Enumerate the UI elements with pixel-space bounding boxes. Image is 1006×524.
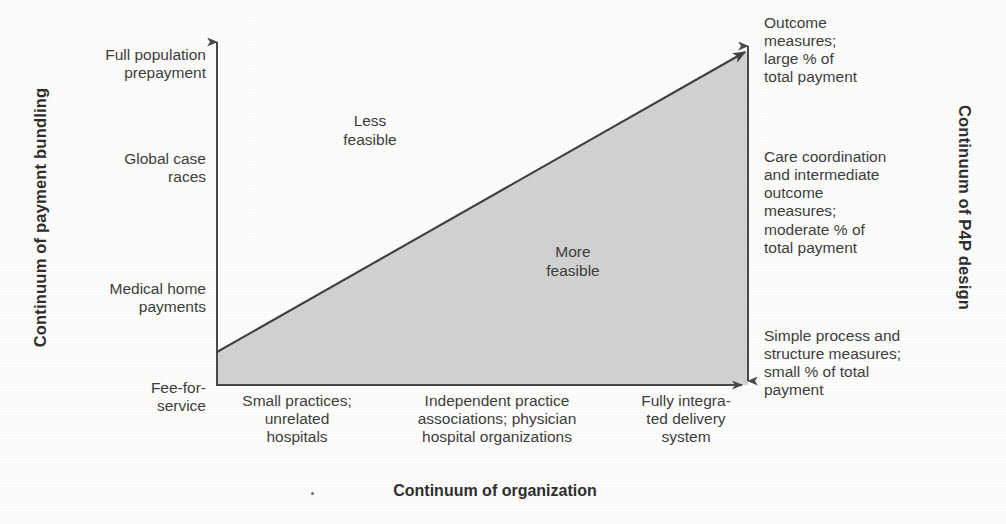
scan-artifact-dot: [311, 492, 314, 495]
x-tick-fully-integrated-delivery-system: Fully integra- ted delivery system: [612, 392, 760, 446]
right-note-outcome-measures: Outcome measures; large % of total payme…: [764, 14, 944, 87]
right-note-simple-process: Simple process and structure measures; s…: [764, 327, 960, 400]
x-axis-title: Continuum of organization: [330, 482, 660, 500]
right-note-care-coordination: Care coordination and intermediate outco…: [764, 148, 960, 257]
y-tick-full-population-prepayment: Full population prepayment: [28, 46, 206, 82]
region-label-more-feasible: More feasible: [503, 243, 643, 280]
y-tick-medical-home-payments: Medical home payments: [28, 280, 206, 316]
region-label-less-feasible: Less feasible: [300, 112, 440, 149]
more-feasible-region: [217, 50, 748, 385]
y-tick-fee-for-service: Fee-for- service: [28, 379, 206, 415]
x-tick-independent-practice-associations: Independent practice associations; physi…: [384, 392, 610, 446]
x-tick-small-practices: Small practices; unrelated hospitals: [208, 392, 386, 446]
figure-container: Continuum of payment bundling Continuum …: [0, 0, 1006, 524]
y-tick-global-case-rates: Global case races: [28, 150, 206, 186]
